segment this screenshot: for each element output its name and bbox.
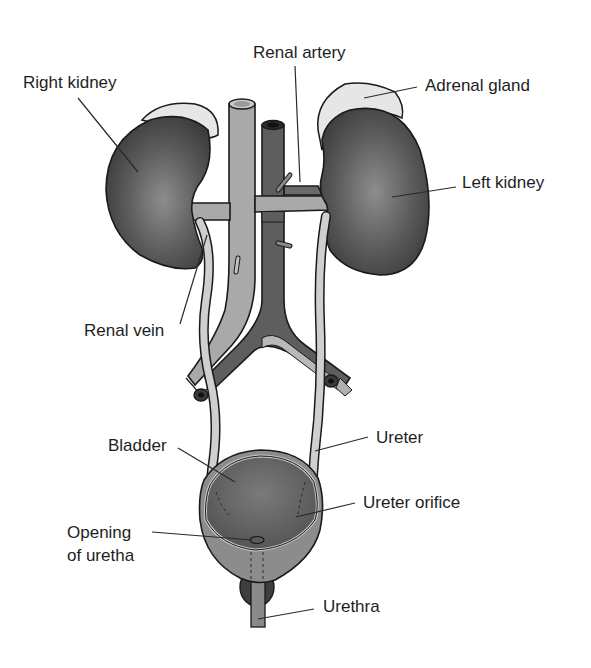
label-renal-artery: Renal artery [253,43,346,62]
label-opening-line2: of uretha [67,546,135,565]
left-iliac-end [324,375,338,387]
label-bladder: Bladder [108,436,167,455]
diagram-canvas: Right kidney Renal artery Adrenal gland … [0,0,591,668]
renal-vessels [190,186,330,222]
bladder [200,450,323,627]
label-urethra: Urethra [323,597,380,616]
urethra-opening [250,537,264,544]
label-left-kidney: Left kidney [462,173,545,192]
label-ureter-orifice: Ureter orifice [363,493,460,512]
label-opening-line1: Opening [67,523,131,542]
label-renal-vein: Renal vein [84,321,164,340]
left-kidney [318,83,429,275]
label-ureter: Ureter [376,428,424,447]
label-adrenal-gland: Adrenal gland [425,76,530,95]
urinary-system-diagram: Right kidney Renal artery Adrenal gland … [0,0,591,668]
right-iliac-end [194,389,208,401]
label-right-kidney: Right kidney [23,73,117,92]
right-kidney [106,103,218,268]
